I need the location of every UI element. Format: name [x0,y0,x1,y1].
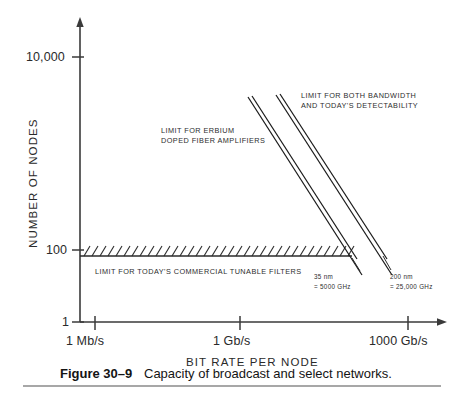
annotation-erbium-line2: DOPED FIBER AMPLIFIERS [161,137,265,146]
x-tick-label-1000gbs: 1000 Gb/s [369,334,428,349]
x-axis-arrowhead [437,318,447,325]
figure-caption: Capacity of broadcast and select network… [144,366,392,382]
y-axis-ticks [72,57,84,322]
y-tick-label-10000: 10,000 [26,50,65,65]
y-axis-title: NUMBER OF NODES [26,118,40,248]
y-axis [76,17,83,322]
y-tick-label-1: 1 [62,315,69,330]
figure-number: Figure 30–9 [60,366,132,381]
figure-container: 10,000 100 1 1 Mb/s 1 Gb/s 1000 Gb/s NUM… [0,0,464,398]
y-tick-label-100: 100 [46,243,67,258]
limit-curve-200nm [276,94,392,275]
annotation-tunable-filters: LIMIT FOR TODAY'S COMMERCIAL TUNABLE FIL… [95,268,302,277]
annotation-bandwidth-line1: LIMIT FOR BOTH BANDWIDTH [301,92,416,101]
annotation-200nm-line2: = 25,000 GHz [390,283,433,291]
annotation-35nm-line1: 35 nm [314,273,333,281]
tunable-filter-limit-curve [80,246,354,256]
annotation-bandwidth-line2: AND TODAY'S DETECTABILITY [301,102,418,111]
annotation-erbium-line1: LIMIT FOR ERBIUM [161,127,235,136]
x-axis [80,318,447,325]
annotation-35nm-line2: = 5000 GHz [314,283,351,291]
x-tick-label-1gbs: 1 Gb/s [213,334,250,349]
y-axis-arrowhead [76,17,83,27]
x-axis-ticks [95,316,408,330]
annotation-200nm-line1: 200 nm [390,273,413,281]
x-tick-label-1mbs: 1 Mb/s [66,334,104,349]
